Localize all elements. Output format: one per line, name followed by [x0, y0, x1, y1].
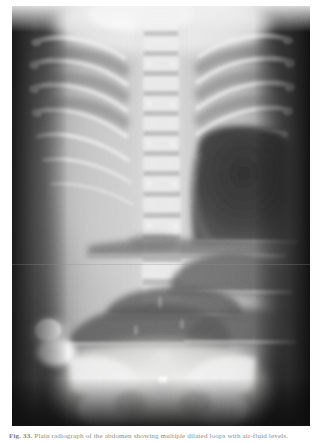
figure-number: Fig. 33. [9, 432, 32, 440]
figure-caption: Fig. 33. Plain radiograph of the abdomen… [9, 431, 319, 442]
radiograph-image [12, 6, 310, 426]
radiograph-plate [12, 6, 310, 426]
figure-caption-text: Plain radiograph of the abdomen showing … [34, 432, 288, 440]
film-grain [12, 6, 310, 426]
figure-page: Fig. 33. Plain radiograph of the abdomen… [0, 0, 323, 442]
